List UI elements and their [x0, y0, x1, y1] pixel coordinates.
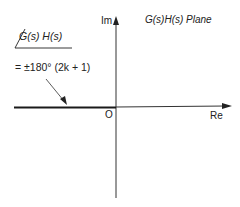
angle-condition-equation: = ±180° (2k + 1) [15, 62, 90, 73]
angle-expression: G(s) H(s) [19, 31, 62, 42]
real-axis [116, 106, 226, 107]
origin-label: O [105, 110, 113, 120]
real-axis-arrow-icon [222, 103, 232, 109]
imaginary-axis-arrow-icon [113, 16, 119, 25]
pointer-line [46, 79, 64, 101]
plane-title: G(s)H(s) Plane [145, 15, 212, 25]
real-axis-label: Re [210, 111, 223, 121]
gh-plane-diagram: Im G(s)H(s) Plane Re O G(s) H(s) = ±180°… [0, 0, 240, 207]
imaginary-axis-label: Im [101, 16, 112, 26]
